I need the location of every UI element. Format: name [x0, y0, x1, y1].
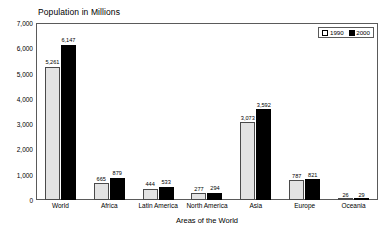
x-axis-tick-label: World	[52, 202, 69, 209]
x-axis-tick-label: Oceania	[341, 202, 365, 209]
y-axis-tick-label: 0	[3, 197, 33, 204]
chart-legend: 1990 2000	[318, 27, 374, 38]
chart-title: Population in Millions	[38, 7, 120, 17]
y-axis-tick-label: 1,000	[3, 171, 33, 178]
legend-item-1990: 1990	[322, 29, 343, 36]
y-axis-tick-label: 2,000	[3, 146, 33, 153]
y-axis-tick-label: 4,000	[3, 95, 33, 102]
y-axis-tick-label: 5,000	[3, 70, 33, 77]
legend-label-2000: 2000	[356, 29, 370, 36]
legend-label-1990: 1990	[330, 29, 344, 36]
x-axis-tick-label: Europe	[294, 202, 315, 209]
y-axis-tick-label: 3,000	[3, 121, 33, 128]
x-axis-title: Areas of the World	[36, 216, 378, 225]
y-axis-tick-label: 6,000	[3, 45, 33, 52]
legend-swatch-1990-icon	[322, 30, 328, 36]
y-axis-tick-label: 7,000	[3, 20, 33, 27]
x-axis-tick-label: North America	[186, 202, 227, 209]
plot-area: 1990 2000	[36, 23, 378, 200]
x-axis-tick-label: Latin America	[138, 202, 177, 209]
x-axis-tick-label: Africa	[101, 202, 118, 209]
x-axis-tick-labels: WorldAfricaLatin AmericaNorth AmericaAsi…	[36, 202, 378, 216]
chart-screenshot: Population in Millions 7,0006,0005,0004,…	[0, 0, 391, 236]
x-axis-tick-label: Asia	[250, 202, 263, 209]
legend-item-2000: 2000	[349, 29, 370, 36]
y-axis-tick-labels: 7,0006,0005,0004,0003,0002,0001,0000	[0, 23, 33, 200]
legend-swatch-2000-icon	[349, 30, 355, 36]
